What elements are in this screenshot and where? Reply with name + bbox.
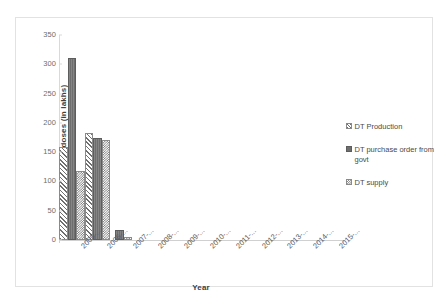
x-axis-tick-label: 2006-...	[105, 244, 111, 250]
legend-label: DT purchase order from govt	[355, 145, 447, 165]
chart-legend: DT ProductionDT purchase order from govt…	[346, 122, 446, 202]
bar-group	[214, 35, 240, 240]
legend-swatch-icon	[346, 123, 352, 129]
bar	[102, 140, 111, 240]
bar	[76, 171, 85, 240]
plot-area-bars	[59, 35, 343, 240]
y-axis-tick-label: 250	[30, 90, 56, 98]
x-axis-tick-label: 2007-...	[131, 244, 137, 250]
y-axis-tick-mark	[59, 93, 62, 94]
y-axis-tick-label: 0	[30, 236, 56, 244]
y-axis-tick-labels: 050100150200250300350	[26, 35, 56, 240]
legend-label: DT supply	[355, 178, 389, 188]
y-axis-tick-mark	[59, 240, 62, 241]
y-axis-tick-label: 300	[30, 61, 56, 69]
legend-swatch-icon	[346, 179, 352, 185]
y-axis-tick-label: 150	[30, 148, 56, 156]
bar-group	[85, 35, 111, 240]
bar-group	[317, 35, 343, 240]
legend-item: DT supply	[346, 178, 446, 188]
y-axis-tick-label: 100	[30, 178, 56, 186]
x-axis-tick-label: 2010-...	[208, 244, 214, 250]
x-axis-tick-label: 2014-...	[311, 244, 317, 250]
bar-group	[240, 35, 266, 240]
bar	[93, 138, 102, 240]
legend-swatch-icon	[346, 146, 352, 152]
bar-group	[111, 35, 137, 240]
x-axis-title: Year	[59, 283, 343, 292]
chart-container: Number of doses (in lakhs) 0501001502002…	[15, 17, 433, 287]
bar-group	[59, 35, 85, 240]
y-axis-tick-mark	[59, 152, 62, 153]
x-axis-tick-label: 2015-...	[337, 244, 343, 250]
bar	[85, 133, 94, 240]
y-axis-tick-label: 350	[30, 31, 56, 39]
bar-group	[291, 35, 317, 240]
x-axis-tick-label: 2005-...	[79, 244, 85, 250]
legend-label: DT Production	[355, 122, 403, 132]
legend-item: DT purchase order from govt	[346, 145, 446, 165]
bar-group	[162, 35, 188, 240]
bar	[59, 147, 68, 240]
bar-group	[136, 35, 162, 240]
x-axis-tick-label: 2012-...	[260, 244, 266, 250]
y-axis-tick-mark	[59, 35, 62, 36]
legend-item: DT Production	[346, 122, 446, 132]
y-axis-tick-label: 200	[30, 119, 56, 127]
y-axis-tick-mark	[59, 122, 62, 123]
y-axis-tick-mark	[59, 64, 62, 65]
bar-group	[188, 35, 214, 240]
bar	[68, 58, 77, 240]
bar-group	[266, 35, 292, 240]
y-axis-tick-label: 50	[30, 207, 56, 215]
x-axis-tick-label: 2011-...	[234, 244, 240, 250]
y-axis-tick-mark	[59, 181, 62, 182]
y-axis-tick-mark	[59, 210, 62, 211]
x-axis-tick-label: 2009-...	[182, 244, 188, 250]
x-axis-tick-label: 2008-...	[156, 244, 162, 250]
x-axis-tick-labels: 2005-...2006-...2007-...2008-...2009-...…	[59, 244, 343, 278]
x-axis-tick-label: 2013-...	[285, 244, 291, 250]
